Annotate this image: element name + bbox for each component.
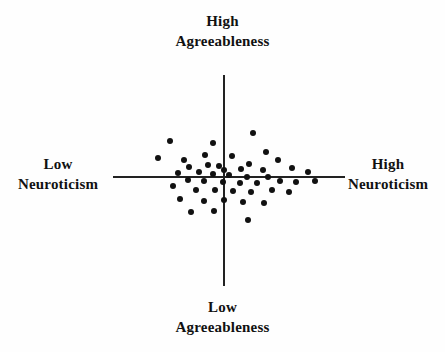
scatter-point [205, 162, 211, 168]
scatter-point [238, 166, 244, 172]
scatter-point [185, 177, 191, 183]
scatter-point [244, 174, 250, 180]
scatter-point [210, 171, 216, 177]
scatter-point [250, 130, 256, 136]
axis-label-high-agreeableness-line1: High [0, 12, 445, 32]
axis-label-high-agreeableness-line2: Agreeableness [0, 32, 445, 52]
scatter-point [212, 187, 218, 193]
axis-label-high-neuroticism: High Neuroticism [338, 155, 438, 194]
axis-label-low-agreeableness-line2: Agreeableness [0, 318, 445, 338]
scatter-point [196, 169, 202, 175]
scatter-point [260, 167, 266, 173]
scatter-point [170, 183, 176, 189]
scatter-point [237, 180, 243, 186]
axis-label-low-agreeableness-line1: Low [0, 298, 445, 318]
scatter-point [175, 170, 181, 176]
scatter-point [254, 180, 260, 186]
scatter-point [289, 165, 295, 171]
scatter-point [263, 149, 269, 155]
axis-label-high-neuroticism-line2: Neuroticism [338, 175, 438, 195]
scatter-point [211, 208, 217, 214]
scatter-point [220, 179, 226, 185]
scatter-point [181, 157, 187, 163]
scatter-point [221, 197, 227, 203]
scatter-point [261, 200, 267, 206]
axis-label-high-neuroticism-line1: High [338, 155, 438, 175]
scatter-point [286, 189, 292, 195]
scatter-plot-figure: High Agreeableness Low Agreeableness Low… [0, 0, 445, 352]
axis-label-low-agreeableness: Low Agreeableness [0, 298, 445, 337]
scatter-point [312, 178, 318, 184]
axis-label-low-neuroticism-line2: Neuroticism [8, 175, 108, 195]
scatter-point [246, 161, 252, 167]
scatter-point [230, 188, 236, 194]
scatter-point [265, 174, 271, 180]
scatter-point [245, 217, 251, 223]
scatter-point [177, 196, 183, 202]
axis-label-low-neuroticism-line1: Low [8, 155, 108, 175]
scatter-point [155, 155, 161, 161]
scatter-point [188, 209, 194, 215]
scatter-point [202, 152, 208, 158]
scatter-point [269, 187, 275, 193]
scatter-point [275, 157, 281, 163]
axis-label-high-agreeableness: High Agreeableness [0, 12, 445, 51]
axis-label-low-neuroticism: Low Neuroticism [8, 155, 108, 194]
scatter-point [201, 198, 207, 204]
scatter-point [277, 178, 283, 184]
scatter-point [293, 179, 299, 185]
scatter-point [248, 189, 254, 195]
scatter-point [201, 178, 207, 184]
scatter-point [210, 140, 216, 146]
scatter-point [193, 187, 199, 193]
scatter-point [226, 172, 232, 178]
scatter-point [167, 138, 173, 144]
scatter-point [240, 199, 246, 205]
scatter-point [229, 153, 235, 159]
scatter-point [186, 164, 192, 170]
scatter-point [305, 169, 311, 175]
